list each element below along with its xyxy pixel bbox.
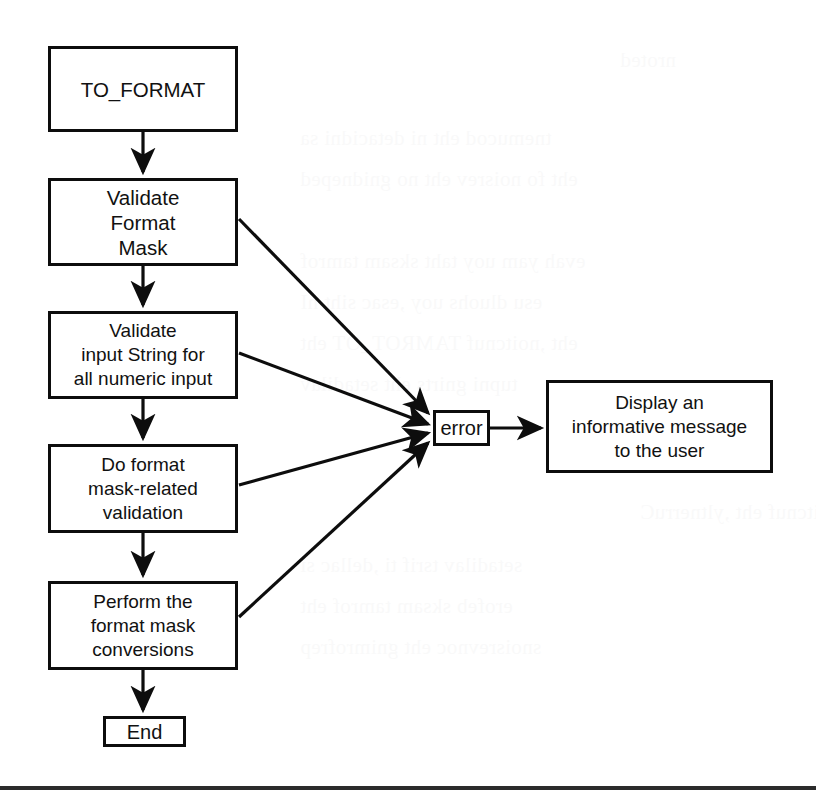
node-label: Validate input String for all numeric in… [70,319,216,391]
node-label: End [123,721,167,743]
node-do-format-mask-validation[interactable]: Do format mask-related validation [48,444,238,533]
node-perform-format-mask-conversions[interactable]: Perform the format mask conversions [48,581,238,670]
node-label: Do format mask-related validation [84,453,202,525]
page-bottom-rule [0,786,816,790]
node-end[interactable]: End [103,716,186,747]
node-validate-input-string[interactable]: Validate input String for all numeric in… [48,311,238,399]
node-label: Display an informative message to the us… [568,391,751,463]
node-label: Validate Format Mask [103,185,184,260]
edge-do-format-to-error [239,433,428,485]
node-label: Perform the format mask conversions [87,590,200,662]
node-error[interactable]: error [433,410,490,446]
diagram-canvas: nroted tnemucod eht ni detacidni sa eht … [0,0,816,802]
node-label: error [436,417,486,439]
edge-validate-mask-to-error [239,219,428,413]
node-label: TO_FORMAT [77,77,210,102]
node-display-informative-message[interactable]: Display an informative message to the us… [546,380,773,473]
node-validate-format-mask[interactable]: Validate Format Mask [48,178,238,266]
edge-perform-to-error [239,443,428,617]
node-to-format[interactable]: TO_FORMAT [48,46,238,132]
edge-validate-input-to-error [239,353,428,424]
